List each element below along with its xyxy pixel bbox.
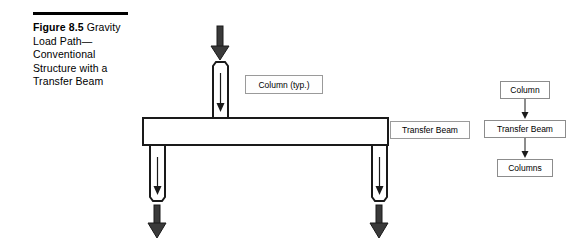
flow-node-transfer-beam-label: Transfer Beam [497,124,553,134]
right-reaction-arrow-icon [370,205,388,238]
label-column-typ-text: Column (typ.) [258,80,309,90]
flow-node-transfer-beam: Transfer Beam [484,120,566,138]
flow-connector-column-to-beam [522,99,529,119]
flow-node-columns: Columns [497,159,553,177]
flow-connector-beam-to-columns [522,138,529,158]
flow-node-column-label: Column [510,85,539,95]
figure-page: Figure 8.5 Gravity Load Path—Conventiona… [0,0,586,245]
left-reaction-arrow-icon [148,205,166,238]
flow-node-column: Column [500,81,550,99]
transfer-beam-shape [143,118,388,145]
label-column-typ: Column (typ.) [245,75,323,94]
flow-node-columns-label: Columns [508,163,542,173]
label-transfer-beam-text: Transfer Beam [402,125,458,135]
label-transfer-beam: Transfer Beam [390,121,470,139]
top-load-arrow-icon [211,26,229,60]
